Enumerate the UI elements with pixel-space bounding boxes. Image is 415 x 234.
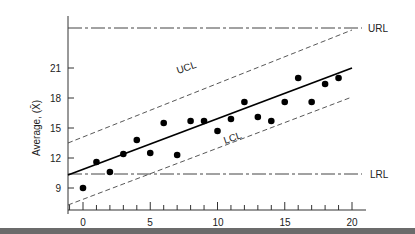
data-point <box>281 99 288 106</box>
data-point <box>187 118 194 125</box>
data-point <box>174 152 181 159</box>
data-point <box>214 128 221 135</box>
data-point <box>107 169 114 176</box>
data-point <box>228 116 235 123</box>
data-point <box>147 150 154 157</box>
x-tick-label: 5 <box>147 217 153 228</box>
data-point <box>335 75 342 82</box>
data-point <box>201 118 208 125</box>
data-point <box>93 159 100 166</box>
x-tick-label: 20 <box>346 217 358 228</box>
data-point <box>134 137 141 144</box>
center-line <box>68 68 352 175</box>
y-tick-label: 9 <box>55 183 61 194</box>
ucl-line <box>68 30 352 143</box>
ucl-label: UCL <box>175 59 198 76</box>
data-point <box>80 185 87 192</box>
y-tick-label: 18 <box>50 93 62 104</box>
data-point <box>255 114 262 121</box>
lrl-label: LRL <box>370 169 389 180</box>
url-label: URL <box>368 23 388 34</box>
x-tick-label: 15 <box>279 217 291 228</box>
data-point <box>308 99 315 106</box>
data-point <box>295 75 302 82</box>
y-axis-title: Average, (X̄) <box>30 100 42 156</box>
lcl-label: LCL <box>222 129 243 146</box>
y-tick-label: 12 <box>50 153 62 164</box>
x-ticks <box>70 202 352 210</box>
data-point <box>120 151 127 158</box>
data-point <box>241 99 248 106</box>
data-point <box>268 118 275 125</box>
y-tick-label: 21 <box>50 63 62 74</box>
control-chart: 9 12 15 18 21 Average, (X̄) 0 5 10 15 20… <box>0 0 415 234</box>
y-ticks <box>68 68 74 188</box>
y-tick-label: 15 <box>50 123 62 134</box>
bottom-border <box>0 228 415 234</box>
x-tick-label: 0 <box>80 217 86 228</box>
lcl-line <box>68 97 352 205</box>
data-point <box>322 81 329 88</box>
x-tick-label: 10 <box>212 217 224 228</box>
data-point <box>160 120 167 127</box>
